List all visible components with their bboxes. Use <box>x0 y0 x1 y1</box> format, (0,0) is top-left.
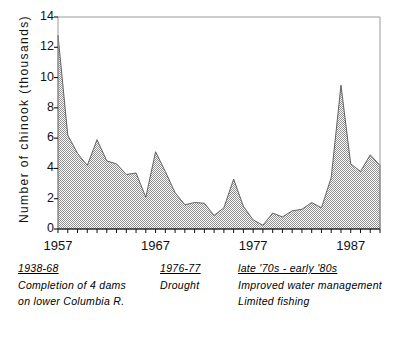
annotation-management: late '70s - early '80s Improved water ma… <box>238 262 382 311</box>
annotation-dams-line-2: on lower Columbia R. <box>18 295 126 307</box>
x-tick-label: 1967 <box>141 238 170 253</box>
annotation-management-line-1: Improved water management <box>238 279 382 291</box>
chart-plot <box>0 0 411 262</box>
chinook-population-figure: Number of chinook (thousands) 1412108642… <box>0 0 411 337</box>
annotation-drought-heading: 1976-77 <box>160 262 201 274</box>
annotation-management-line-2: Limited fishing <box>238 295 382 307</box>
y-tick-label: 6 <box>30 131 54 144</box>
annotation-drought-line-1: Drought <box>160 279 201 291</box>
annotation-dams: 1938-68 Completion of 4 dams on lower Co… <box>18 262 126 311</box>
y-tick-label: 10 <box>30 71 54 84</box>
area-series <box>58 35 380 229</box>
y-tick-label: 4 <box>30 161 54 174</box>
chart-area: Number of chinook (thousands) 1412108642… <box>0 0 411 262</box>
y-tick-label: 8 <box>30 101 54 114</box>
annotation-management-heading: late '70s - early '80s <box>238 262 382 274</box>
y-tick-label: 12 <box>30 40 54 53</box>
y-tick-label: 14 <box>30 10 54 23</box>
x-tick-label: 1977 <box>239 238 268 253</box>
y-tick-label: 2 <box>30 192 54 205</box>
y-tick-label: 0 <box>30 222 54 235</box>
x-tick-label: 1987 <box>336 238 365 253</box>
annotations-block: 1938-68 Completion of 4 dams on lower Co… <box>0 262 411 337</box>
annotation-drought: 1976-77 Drought <box>160 262 201 295</box>
y-tick-label-group: 14121086420 <box>28 0 54 262</box>
annotation-dams-line-1: Completion of 4 dams <box>18 279 126 291</box>
annotation-dams-heading: 1938-68 <box>18 262 126 274</box>
x-tick-label: 1957 <box>44 238 73 253</box>
